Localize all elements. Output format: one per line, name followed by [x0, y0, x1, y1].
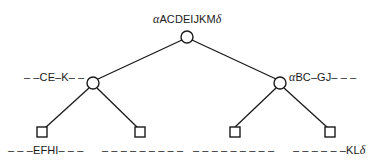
left-label: – –CE–K– –: [24, 71, 84, 83]
leaf-rl-label: – – – – – – – – –: [193, 144, 274, 156]
left-node: [87, 77, 99, 89]
right-label: αBC–GJ– – –: [289, 71, 356, 83]
root-label-text: ACDEIJKM: [159, 13, 215, 25]
leaf-ll-label: – – –EFHI– – –: [8, 144, 83, 156]
leaf-ll-node: [37, 127, 47, 137]
delta-symbol: δ: [216, 12, 222, 26]
leaf-rl-node: [230, 127, 240, 137]
right-node: [274, 77, 286, 89]
root-node: [181, 31, 193, 43]
edge-left-leaf-lr: [97, 88, 138, 128]
left-label-text: – –CE–K– –: [24, 71, 84, 83]
edge-right-leaf-rl: [234, 88, 276, 128]
right-label-text: BC–GJ– – –: [295, 71, 356, 83]
leaf-lr-label-text: – – – – – – – – –: [102, 144, 183, 156]
edge-root-left: [98, 40, 182, 79]
edge-left-leaf-ll: [45, 88, 89, 128]
delta-symbol: δ: [360, 143, 366, 157]
leaf-rr-label: – – – – – –KLδ: [293, 144, 365, 156]
leaf-lr-node: [135, 127, 145, 137]
leaf-ll-label-text: – – –EFHI– – –: [8, 144, 83, 156]
edge-root-right: [192, 40, 276, 79]
leaf-rr-node: [325, 127, 335, 137]
root-label: αACDEIJKMδ: [153, 13, 222, 25]
leaf-rl-label-text: – – – – – – – – –: [193, 144, 274, 156]
leaf-lr-label: – – – – – – – – –: [102, 144, 183, 156]
edge-right-leaf-rr: [284, 88, 328, 128]
leaf-rr-label-text: – – – – – –KL: [293, 144, 360, 156]
